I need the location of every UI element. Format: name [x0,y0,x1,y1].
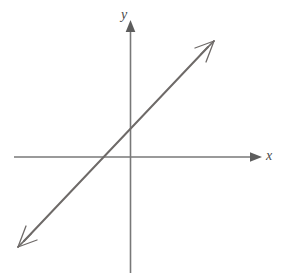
plotted-line [24,47,208,241]
coordinate-plane-svg: x y [0,0,283,273]
graph-figure: x y [0,0,283,273]
x-axis-arrowhead-icon [250,152,262,162]
y-axis-label: y [119,7,128,22]
x-axis-label: x [265,148,273,163]
